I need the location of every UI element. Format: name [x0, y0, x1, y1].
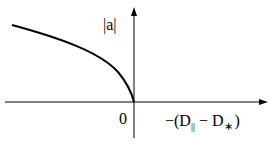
- curve-a-magnitude: [12, 25, 134, 102]
- x-axis-label: −(D|| − D∗): [165, 112, 240, 132]
- x-axis-arrow-icon: [259, 99, 268, 105]
- y-axis-arrow-icon: [131, 7, 137, 16]
- plot-canvas: |a| 0 −(D|| − D∗): [0, 0, 272, 146]
- y-axis-label: |a|: [103, 16, 117, 34]
- origin-label: 0: [119, 110, 127, 127]
